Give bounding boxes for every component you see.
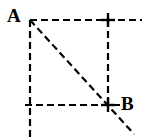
figure-canvas — [0, 0, 146, 140]
point-label-a: A — [7, 6, 21, 25]
diagonal-dashed-line — [30, 20, 134, 134]
point-label-b: B — [121, 94, 134, 113]
geometry-figure: A B — [0, 0, 146, 140]
plus-marker-top-right — [101, 13, 115, 27]
